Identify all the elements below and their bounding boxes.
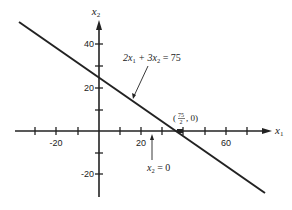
x2-axis-arrow-icon (96, 20, 102, 30)
axis-annotation-arrow-icon (150, 134, 154, 140)
constraint-line (19, 22, 265, 193)
intercept-point (177, 129, 183, 133)
axis-annotation-label: x2 = 0 (146, 162, 170, 174)
diagram-canvas: -20 20 60 40 20 -20 x2 x1 2x1 + 3x2 = 75… (0, 0, 292, 210)
x1-tick-label-60: 60 (221, 138, 231, 148)
constraint-label-leader (134, 66, 148, 96)
x1-tick-label-neg20: -20 (49, 138, 62, 148)
constraint-label: 2x1 + 3x2 = 75 (123, 52, 181, 64)
x1-tick-label-20: 20 (136, 138, 146, 148)
intercept-label: ( 75 2 , 0) (173, 112, 198, 125)
x2-tick-label-40: 40 (84, 39, 94, 49)
svg-text:2: 2 (180, 119, 183, 125)
x1-axis-arrow-icon (262, 128, 272, 134)
x1-axis-label: x1 (274, 124, 284, 138)
svg-text:, 0): , 0) (186, 113, 198, 123)
x2-tick-label-20: 20 (84, 83, 94, 93)
x2-axis-label: x2 (91, 5, 101, 19)
svg-text:75: 75 (178, 112, 184, 118)
svg-text:(: ( (173, 113, 176, 123)
x2-tick-label-neg20: -20 (81, 169, 94, 179)
